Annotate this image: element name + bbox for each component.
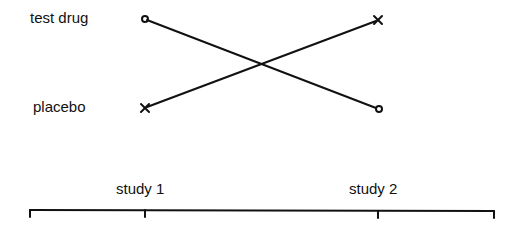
placebo-study1-cross-marker bbox=[141, 104, 149, 112]
crossover-diagram bbox=[0, 0, 518, 231]
placebo-study2-cross-marker bbox=[374, 16, 382, 24]
test-drug-study1-circle-marker bbox=[142, 16, 148, 22]
study-axis bbox=[30, 210, 494, 218]
test-drug-study2-circle-marker bbox=[376, 106, 382, 112]
